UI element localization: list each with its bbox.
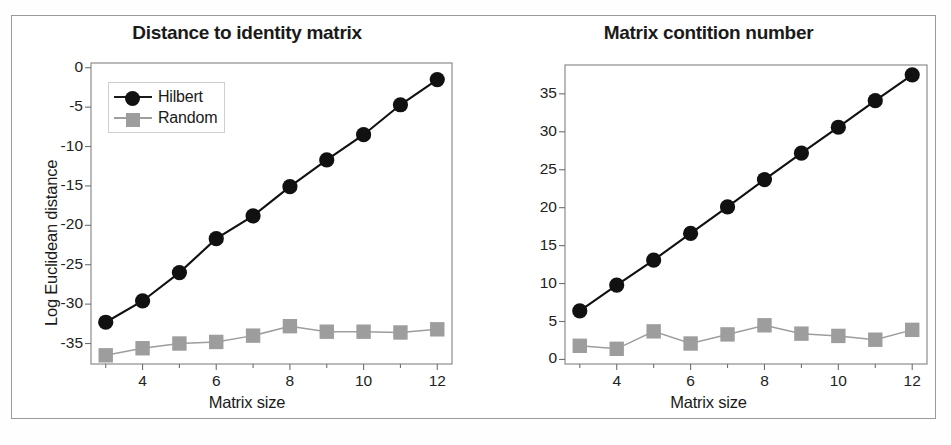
legend-entry-random: Random [114, 107, 217, 128]
y-tick-label: -30 [35, 294, 83, 312]
legend-left: Hilbert Random [108, 82, 225, 133]
x-axis-title-left: Matrix size [12, 393, 482, 412]
y-tick-label: -15 [35, 176, 83, 194]
legend-swatch-circle-icon [114, 88, 152, 106]
x-tick-label: 6 [671, 372, 711, 390]
x-tick-label: 8 [270, 372, 310, 390]
legend-label-random: Random [158, 109, 217, 127]
x-tick-label: 10 [818, 372, 858, 390]
x-tick-label: 12 [417, 372, 457, 390]
legend-entry-hilbert: Hilbert [114, 86, 217, 107]
y-tick-label: 0 [35, 58, 83, 76]
x-tick-label: 4 [597, 372, 637, 390]
y-tick-label: 35 [509, 84, 557, 102]
figure-border: Distance to identity matrix Log Euclidea… [11, 15, 936, 419]
x-axis-title-right: Matrix size [480, 393, 937, 412]
chart-panel-distance: Distance to identity matrix Log Euclidea… [12, 16, 482, 420]
x-tick-label: 12 [892, 372, 932, 390]
y-tick-label: 25 [509, 160, 557, 178]
x-tick-label: 4 [123, 372, 163, 390]
x-tick-label: 10 [344, 372, 384, 390]
y-tick-label: 30 [509, 122, 557, 140]
y-tick-label: 5 [509, 312, 557, 330]
y-tick-label: 15 [509, 236, 557, 254]
figure-canvas: Distance to identity matrix Log Euclidea… [0, 0, 951, 445]
chart-panel-condition: Matrix contition number Log kappa Matrix… [480, 16, 937, 420]
y-tick-label: -10 [35, 137, 83, 155]
y-tick-label: 10 [509, 274, 557, 292]
x-tick-label: 8 [744, 372, 784, 390]
y-tick-label: 0 [509, 349, 557, 367]
y-tick-label: 20 [509, 198, 557, 216]
y-tick-label: -35 [35, 334, 83, 352]
y-tick-label: -25 [35, 255, 83, 273]
x-tick-label: 6 [196, 372, 236, 390]
y-tick-label: -20 [35, 215, 83, 233]
y-tick-label: -5 [35, 97, 83, 115]
legend-swatch-square-icon [114, 109, 152, 127]
legend-label-hilbert: Hilbert [158, 88, 203, 106]
